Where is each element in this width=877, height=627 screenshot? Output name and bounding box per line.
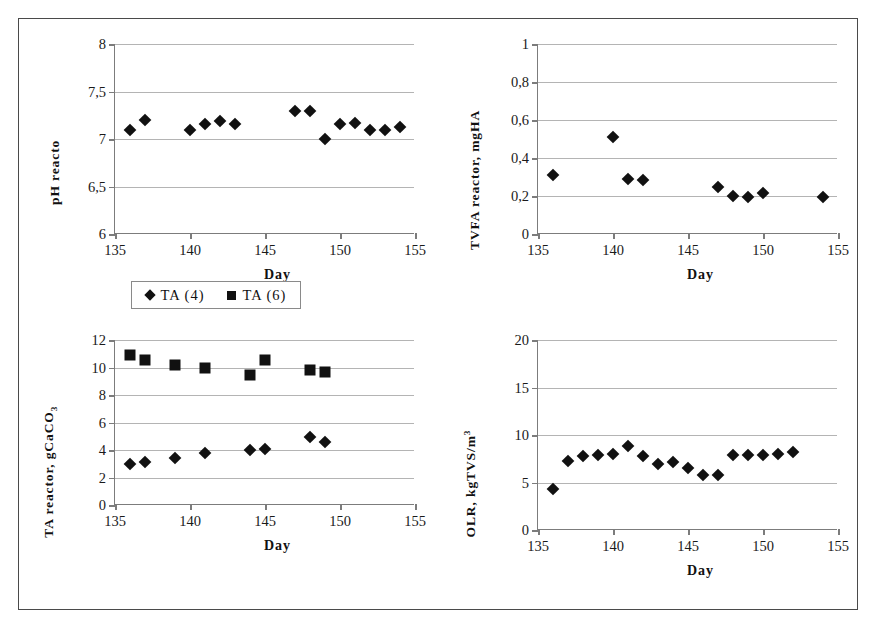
data-point (304, 104, 317, 117)
data-point (637, 450, 650, 463)
x-axis-tick (538, 529, 540, 535)
data-point (727, 190, 740, 203)
y-axis-tick-label: 8 (99, 387, 106, 404)
gridline (538, 196, 837, 197)
data-point (199, 446, 212, 459)
y-axis-tick-label: 7 (99, 131, 106, 148)
data-point (199, 117, 212, 130)
legend-item-ta6: TA (6) (227, 287, 287, 304)
gridline (538, 82, 837, 83)
gridline (538, 388, 837, 389)
data-point (305, 365, 316, 376)
y-axis-tick (109, 187, 115, 189)
x-axis-tick-label: 155 (827, 538, 849, 555)
y-axis-tick-label: 2 (99, 469, 106, 486)
chart-panel-tvfa-reactor: 00,20,40,60,81135140145150155 TVFA react… (439, 19, 859, 315)
data-point (562, 454, 575, 467)
data-point (712, 180, 725, 193)
data-point (607, 131, 620, 144)
data-point (319, 436, 332, 449)
x-axis-title-tvfa-reactor: Day (687, 267, 714, 283)
y-axis-title-olr: OLR, kgTVS/m3 (462, 430, 480, 538)
y-axis-tick-label: 20 (515, 332, 530, 349)
x-axis-tick-label: 145 (254, 242, 276, 259)
y-axis-tick-label: 15 (515, 379, 530, 396)
data-point (757, 187, 770, 200)
data-point (787, 445, 800, 458)
gridline (115, 395, 414, 396)
data-point (245, 370, 256, 381)
plot-area-olr: 05101520135140145150155 (537, 340, 837, 530)
y-axis-tick (532, 340, 538, 342)
data-point (757, 449, 770, 462)
data-point (817, 191, 830, 204)
x-axis-tick (265, 233, 267, 239)
x-axis-tick-label: 135 (527, 242, 549, 259)
y-axis-tick-label: 1 (522, 36, 529, 53)
figure-frame: 66,577,58135140145150155 pH reacto Day 0… (18, 18, 858, 610)
y-axis-tick-label: 6 (99, 226, 106, 243)
gridline (538, 435, 837, 436)
data-point (214, 115, 227, 128)
y-axis-tick-label: 6,5 (88, 178, 106, 195)
x-axis-tick (763, 529, 765, 535)
y-axis-tick-label: 10 (92, 359, 107, 376)
gridline (115, 187, 414, 188)
legend-ta-reactor: TA (4) TA (6) (131, 281, 301, 309)
plot-area-ta-reactor: 024681012135140145150155 (114, 340, 414, 505)
y-axis-tick-label: 6 (99, 414, 106, 431)
y-axis-tick (532, 435, 538, 437)
data-point (637, 173, 650, 186)
x-axis-tick (613, 233, 615, 239)
gridline (115, 423, 414, 424)
data-point (394, 120, 407, 133)
gridline (115, 44, 414, 45)
x-axis-title-olr: Day (687, 563, 714, 579)
data-point (652, 457, 665, 470)
y-axis-title-tvfa-reactor: TVFA reactor, mgHA (467, 110, 483, 250)
data-point (682, 461, 695, 474)
y-axis-tick-label: 0,4 (511, 150, 529, 167)
gridline (115, 139, 414, 140)
y-axis-tick-label: 0 (99, 497, 106, 514)
x-axis-tick-label: 155 (404, 513, 426, 530)
data-point (229, 117, 242, 130)
y-axis-tick (532, 82, 538, 84)
chart-panel-olr: 05101520135140145150155 OLR, kgTVS/m3 Da… (439, 315, 859, 611)
data-point (304, 431, 317, 444)
data-point (772, 448, 785, 461)
y-axis-tick (109, 92, 115, 94)
plot-area-tvfa-reactor: 00,20,40,60,81135140145150155 (537, 44, 837, 234)
x-axis-tick (415, 233, 417, 239)
x-axis-tick-label: 135 (104, 242, 126, 259)
chart-panel-ph-reactor: 66,577,58135140145150155 pH reacto Day (19, 19, 439, 315)
y-axis-tick (109, 423, 115, 425)
gridline (538, 120, 837, 121)
y-axis-tick-label: 0 (522, 522, 529, 539)
x-axis-tick-label: 140 (179, 513, 201, 530)
gridline (538, 483, 837, 484)
y-axis-tick (532, 120, 538, 122)
legend-item-ta4: TA (4) (146, 287, 205, 304)
y-axis-tick (109, 368, 115, 370)
x-axis-tick (763, 233, 765, 239)
data-point (200, 362, 211, 373)
data-point (379, 123, 392, 136)
data-point (622, 440, 635, 453)
y-axis-title-ph-reactor: pH reacto (47, 140, 63, 205)
x-axis-tick-label: 150 (329, 513, 351, 530)
x-axis-tick (190, 233, 192, 239)
y-axis-tick (109, 450, 115, 452)
gridline (538, 340, 837, 341)
data-point (547, 483, 560, 496)
data-point (622, 173, 635, 186)
y-axis-tick (532, 158, 538, 160)
data-point (320, 366, 331, 377)
x-axis-tick (115, 233, 117, 239)
y-axis-tick-label: 12 (92, 332, 107, 349)
y-axis-tick-label: 0,6 (511, 112, 529, 129)
x-axis-tick (415, 504, 417, 510)
y-axis-title-ta-reactor: TA reactor, gCaCO3 (41, 406, 59, 538)
x-axis-tick-label: 135 (527, 538, 549, 555)
data-point (547, 169, 560, 182)
